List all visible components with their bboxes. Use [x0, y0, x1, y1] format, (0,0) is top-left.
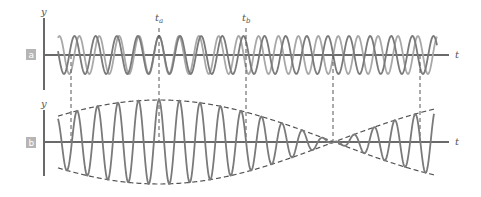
panel-b-badge-label: b — [29, 138, 35, 148]
t-b-marker-label: tb — [242, 12, 251, 25]
panel-a-badge-label: a — [29, 50, 35, 60]
beats-diagram: a y t ta tb b y t — [0, 0, 481, 197]
panel-b: b y t — [26, 98, 460, 184]
t-a-marker-label: ta — [155, 12, 163, 25]
panel-a-y-label: y — [40, 6, 47, 17]
panel-a: a y t ta tb — [26, 6, 460, 90]
panel-a-t-label: t — [455, 49, 460, 60]
panel-b-y-label: y — [40, 98, 47, 109]
panel-b-t-label: t — [455, 136, 460, 147]
